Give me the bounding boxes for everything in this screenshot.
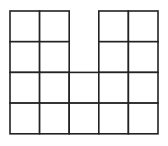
grid-cell-r2-c4 [128, 72, 158, 103]
grid-cell-r1-c0 [10, 42, 40, 73]
grid-cell-r3-c3 [99, 103, 129, 134]
grid-cell-r0-c0 [10, 11, 40, 42]
grid-cell-r1-c4 [128, 42, 158, 73]
grid-cell-r0-c3 [99, 11, 129, 42]
grid-cell-r0-c1 [40, 11, 70, 42]
grid-cell-r1-c3 [99, 42, 129, 73]
grid-cell-r2-c3 [99, 72, 129, 103]
grid-cell-r3-c1 [40, 103, 70, 134]
grid-cell-r1-c1 [40, 42, 70, 73]
grid-cell-r3-c2 [69, 103, 99, 134]
u-shaped-grid-diagram [0, 0, 168, 146]
grid-cell-r0-c4 [128, 11, 158, 42]
grid-cell-r2-c1 [40, 72, 70, 103]
grid-cell-r3-c0 [10, 103, 40, 134]
grid-cell-r3-c4 [128, 103, 158, 134]
grid-cell-r2-c2 [69, 72, 99, 103]
grid-cell-r2-c0 [10, 72, 40, 103]
